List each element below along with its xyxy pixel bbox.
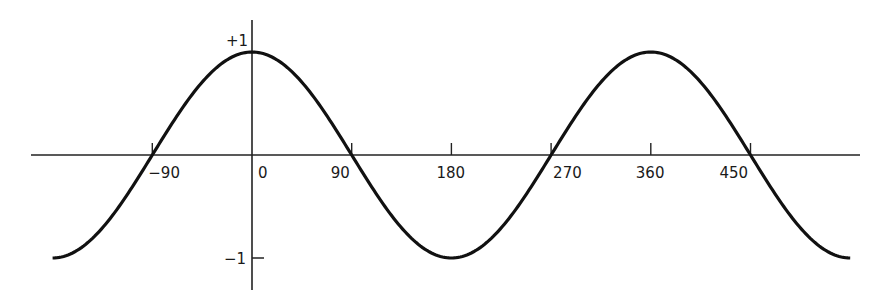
x-ticks: [152, 143, 750, 155]
x-tick-label: −90: [148, 164, 180, 182]
x-tick-label: 180: [436, 164, 465, 182]
y-tick-label-minus-1: −1: [224, 250, 246, 268]
x-tick-label: 360: [636, 164, 665, 182]
x-tick-label: 0: [258, 164, 268, 182]
cosine-chart: −90090180270360450 +1 −1: [0, 0, 878, 305]
x-tick-labels: −90090180270360450: [148, 164, 748, 182]
x-tick-label: 90: [331, 164, 350, 182]
y-tick-label-plus-1: +1: [226, 32, 248, 50]
x-tick-label: 450: [720, 164, 749, 182]
x-tick-label: 270: [553, 164, 582, 182]
